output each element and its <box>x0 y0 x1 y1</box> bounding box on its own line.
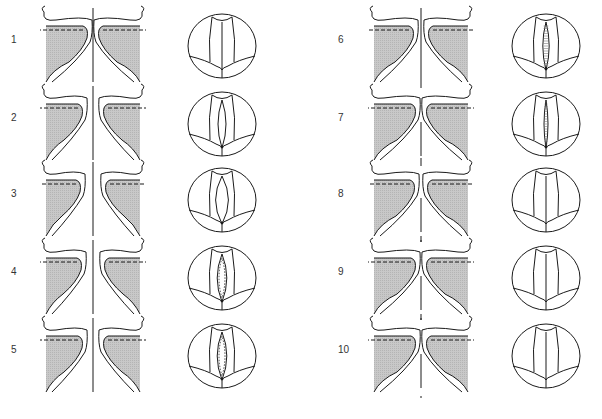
panel-number-label: 6 <box>338 34 344 45</box>
vocal-fold-coronal-section <box>38 4 148 84</box>
panel-number-label: 8 <box>338 188 344 199</box>
glottis-superior-view <box>510 242 582 314</box>
panel-7: 7 <box>322 82 602 160</box>
vocal-fold-coronal-section <box>38 236 148 316</box>
panel-5: 5 <box>0 314 301 392</box>
vocal-fold-coronal-section <box>366 236 476 316</box>
glottis-superior-view <box>186 242 258 314</box>
panel-4: 4 <box>0 236 301 314</box>
panel-number-label: 9 <box>338 266 344 277</box>
panel-number-label: 3 <box>11 188 17 199</box>
panel-2: 2 <box>0 82 301 160</box>
glottis-superior-view <box>510 10 582 82</box>
vocal-fold-coronal-section <box>38 82 148 162</box>
panel-number-label: 5 <box>11 344 17 355</box>
panel-3: 3 <box>0 158 301 236</box>
glottis-superior-view <box>186 164 258 236</box>
panel-9: 9 <box>322 236 602 314</box>
glottis-superior-view <box>510 164 582 236</box>
vocal-fold-coronal-section <box>38 158 148 238</box>
glottis-superior-view <box>186 10 258 82</box>
panel-number-label: 7 <box>338 112 344 123</box>
vocal-fold-coronal-section <box>366 4 476 84</box>
panel-1: 1 <box>0 4 301 82</box>
vocal-fold-coronal-section <box>38 314 148 394</box>
panel-number-label: 4 <box>11 266 17 277</box>
panel-10: 10 <box>322 314 602 392</box>
panel-6: 6 <box>322 4 602 82</box>
vocal-fold-coronal-section <box>366 314 476 394</box>
glottis-superior-view <box>186 88 258 160</box>
glottis-superior-view <box>510 320 582 392</box>
panel-number-label: 2 <box>11 112 17 123</box>
glottis-superior-view <box>510 88 582 160</box>
panel-8: 8 <box>322 158 602 236</box>
glottis-superior-view <box>186 320 258 392</box>
panel-number-label: 1 <box>11 34 17 45</box>
panel-number-label: 10 <box>338 344 349 355</box>
vocal-fold-coronal-section <box>366 82 476 162</box>
vocal-fold-coronal-section <box>366 158 476 238</box>
